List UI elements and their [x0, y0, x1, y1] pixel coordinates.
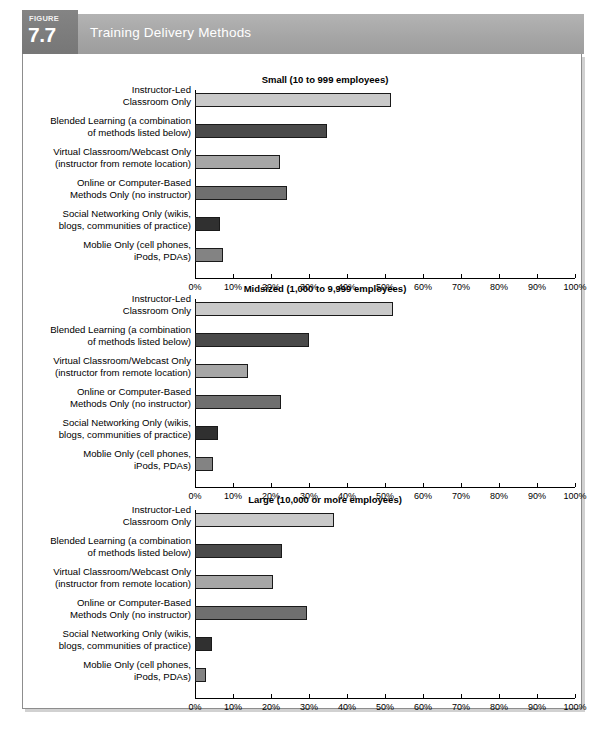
x-axis-tick-label: 20% — [262, 702, 280, 712]
x-axis-tick-label: 70% — [452, 702, 470, 712]
x-axis-tick-label: 100% — [563, 702, 586, 712]
chart-title: Midsized (1,000 to 9,999 employees) — [195, 283, 575, 294]
x-axis-tick — [195, 274, 196, 278]
x-axis-tick — [423, 483, 424, 487]
bar-virtual-classroom — [195, 364, 248, 378]
category-label: Online or Computer-Based Methods Only (n… — [70, 386, 191, 409]
x-axis-tick-label: 50% — [376, 702, 394, 712]
x-axis-tick — [499, 694, 500, 698]
figure-page: FIGURE 7.7 Training Delivery Methods Sma… — [0, 0, 602, 731]
x-axis-tick — [537, 694, 538, 698]
x-axis-tick-label: 90% — [528, 702, 546, 712]
bar-mobile-only — [195, 248, 223, 262]
x-axis-tick — [537, 483, 538, 487]
x-axis-tick-label: 0% — [188, 702, 201, 712]
bar-mobile-only — [195, 457, 213, 471]
category-label: Virtual Classroom/Webcast Only (instruct… — [53, 146, 191, 169]
x-axis-line — [195, 278, 575, 279]
category-label: Instructor-Led Classroom Only — [123, 293, 191, 316]
bar-mobile-only — [195, 668, 206, 682]
x-axis-tick — [423, 694, 424, 698]
x-axis-tick — [195, 483, 196, 487]
bar-social-networking — [195, 637, 212, 651]
bar-virtual-classroom — [195, 155, 280, 169]
x-axis-tick — [461, 483, 462, 487]
x-axis-tick — [271, 274, 272, 278]
x-axis-tick-label: 80% — [490, 702, 508, 712]
category-label: Blended Learning (a combination of metho… — [50, 115, 191, 138]
category-label: Online or Computer-Based Methods Only (n… — [70, 177, 191, 200]
x-axis-tick — [499, 274, 500, 278]
x-axis-tick — [347, 274, 348, 278]
category-label: Online or Computer-Based Methods Only (n… — [70, 597, 191, 620]
figure-badge-number: 7.7 — [28, 23, 56, 47]
x-axis-tick-label: 60% — [414, 702, 432, 712]
x-axis-tick — [575, 274, 576, 278]
x-axis-tick-label: 30% — [300, 702, 318, 712]
x-axis-line — [195, 487, 575, 488]
x-axis-tick — [347, 694, 348, 698]
bar-online-computer-based — [195, 606, 307, 620]
category-label: Moblie Only (cell phones, iPods, PDAs) — [83, 448, 191, 471]
figure-badge-word: FIGURE — [29, 14, 59, 23]
x-axis-tick — [271, 694, 272, 698]
category-label: Virtual Classroom/Webcast Only (instruct… — [53, 566, 191, 589]
bar-virtual-classroom — [195, 575, 273, 589]
figure-badge: FIGURE 7.7 — [22, 10, 78, 56]
bar-blended-learning — [195, 333, 309, 347]
category-label: Instructor-Led Classroom Only — [123, 84, 191, 107]
x-axis-tick — [233, 274, 234, 278]
bar-social-networking — [195, 426, 218, 440]
x-axis-tick — [309, 274, 310, 278]
category-label: Blended Learning (a combination of metho… — [50, 324, 191, 347]
x-axis-tick — [537, 274, 538, 278]
x-axis-tick — [423, 274, 424, 278]
bar-online-computer-based — [195, 395, 281, 409]
category-label: Social Networking Only (wikis, blogs, co… — [59, 628, 191, 651]
x-axis-tick — [385, 694, 386, 698]
x-axis-tick — [385, 274, 386, 278]
x-axis-tick — [271, 483, 272, 487]
x-axis-tick — [233, 483, 234, 487]
x-axis-tick — [461, 694, 462, 698]
x-axis-tick — [195, 694, 196, 698]
x-axis-tick — [575, 483, 576, 487]
chart-title: Large (10,000 or more employees) — [195, 494, 575, 505]
x-axis-tick — [461, 274, 462, 278]
category-label: Moblie Only (cell phones, iPods, PDAs) — [83, 659, 191, 682]
figure-title: Training Delivery Methods — [90, 25, 251, 40]
bar-online-computer-based — [195, 186, 287, 200]
chart-title: Small (10 to 999 employees) — [195, 74, 575, 85]
x-axis-tick — [309, 694, 310, 698]
bar-instructor-led — [195, 513, 334, 527]
x-axis-tick — [499, 483, 500, 487]
x-axis-tick-label: 10% — [224, 702, 242, 712]
category-label: Social Networking Only (wikis, blogs, co… — [59, 208, 191, 231]
bar-social-networking — [195, 217, 220, 231]
x-axis-tick — [233, 694, 234, 698]
bar-blended-learning — [195, 124, 327, 138]
x-axis-tick — [309, 483, 310, 487]
x-axis-tick-label: 40% — [338, 702, 356, 712]
category-label: Moblie Only (cell phones, iPods, PDAs) — [83, 239, 191, 262]
bar-instructor-led — [195, 93, 391, 107]
category-label: Instructor-Led Classroom Only — [123, 504, 191, 527]
category-label: Social Networking Only (wikis, blogs, co… — [59, 417, 191, 440]
x-axis-tick — [575, 694, 576, 698]
bar-blended-learning — [195, 544, 282, 558]
category-label: Blended Learning (a combination of metho… — [50, 535, 191, 558]
figure-panel: Small (10 to 999 employees)Instructor-Le… — [22, 54, 582, 709]
x-axis-line — [195, 698, 575, 699]
bar-instructor-led — [195, 302, 393, 316]
x-axis-tick — [385, 483, 386, 487]
category-label: Virtual Classroom/Webcast Only (instruct… — [53, 355, 191, 378]
x-axis-tick — [347, 483, 348, 487]
